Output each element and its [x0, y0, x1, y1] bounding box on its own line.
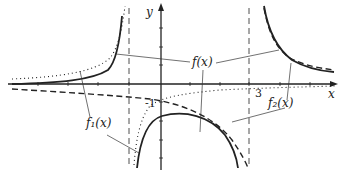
- function-plot: y x 3 -1 f(x) f₁(x) f₂(x): [0, 0, 343, 174]
- y-tick-label-neg1: -1: [145, 97, 156, 110]
- label-f: f(x): [191, 55, 213, 69]
- curve-f2: [12, 6, 336, 165]
- y-axis-label: y: [145, 5, 153, 19]
- y-axis: [158, 3, 164, 170]
- label-f1: f₁(x): [85, 116, 112, 130]
- x-tick-label-3: 3: [255, 87, 262, 100]
- curve-f1: [12, 8, 334, 168]
- x-axis-label: x: [328, 87, 335, 101]
- label-f2: f₂(x): [267, 96, 294, 110]
- y-axis-arrow-icon: [158, 3, 164, 11]
